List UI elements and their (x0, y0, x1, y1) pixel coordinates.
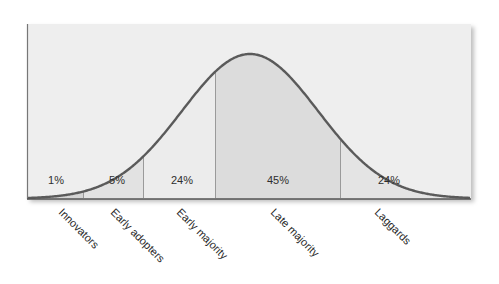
category-label: Early adopters (109, 206, 168, 265)
percentage-label: 24% (378, 174, 400, 186)
category-label: Innovators (57, 206, 102, 251)
category-label: Early majority (175, 206, 231, 262)
percentage-label: 45% (267, 174, 289, 186)
percentage-label: 5% (109, 174, 125, 186)
percentage-label: 1% (48, 174, 64, 186)
adoption-curve-diagram: 1%5%24%45%24% InnovatorsEarly adoptersEa… (0, 0, 499, 284)
category-labels: InnovatorsEarly adoptersEarly majorityLa… (57, 206, 414, 265)
percentage-label: 24% (171, 174, 193, 186)
category-label: Laggards (373, 206, 414, 247)
category-label: Late majority (269, 206, 322, 259)
